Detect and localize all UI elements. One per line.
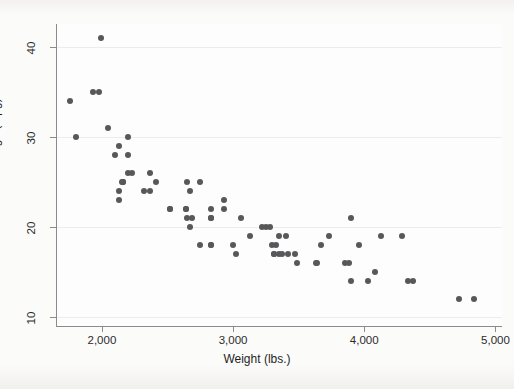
data-point [208,206,214,212]
data-point [267,224,273,230]
data-point [326,233,332,239]
data-point [153,179,159,185]
data-point [147,170,153,176]
scatter-plot-figure: 10203040 2,0003,0004,0005,000 Mileage (m… [0,0,514,389]
data-point [187,224,193,230]
data-point [410,278,416,284]
x-tick-label: 4,000 [350,334,379,346]
x-tick-label: 5,000 [481,334,510,346]
data-point [112,152,118,158]
data-point [208,215,214,221]
data-point [259,224,265,230]
x-axis-line [56,326,502,327]
data-point [365,278,371,284]
scan-artifact-bottom [0,363,514,389]
data-point [356,242,362,248]
y-tick-label: 20 [25,221,37,234]
y-tick-label-wrap: 40 [16,38,46,56]
data-point [197,242,203,248]
x-axis-title: Weight (lbs.) [0,352,514,366]
y-tick-mark [50,47,56,48]
x-tick-mark [364,326,365,332]
data-point [348,278,354,284]
y-tick-label-wrap: 20 [16,218,46,236]
data-point [230,242,236,248]
scan-artifact-top [0,0,514,14]
data-point [221,197,227,203]
data-point [247,233,253,239]
data-point [116,143,122,149]
y-tick-label-wrap: 10 [16,308,46,326]
y-tick-label: 10 [25,312,37,325]
y-axis-line [56,24,57,326]
data-point [285,251,291,257]
y-tick-mark [50,317,56,318]
data-point [105,125,111,131]
data-point [119,179,125,185]
data-point [279,251,285,257]
data-point [283,233,289,239]
data-point [125,134,131,140]
data-point [125,152,131,158]
y-axis-title: Mileage (mpg) [0,98,2,175]
x-tick-mark [495,326,496,332]
y-tick-mark [50,227,56,228]
data-point [98,35,104,41]
y-tick-label-wrap: 30 [16,128,46,146]
data-point [348,215,354,221]
data-point [73,134,79,140]
data-point [125,170,131,176]
data-point [189,215,195,221]
data-point [184,215,190,221]
gridline [56,137,502,138]
data-point [197,179,203,185]
x-tick-mark [233,326,234,332]
data-point [294,260,300,266]
data-point [471,296,477,302]
data-point [313,260,319,266]
gridline [56,227,502,228]
data-point [292,251,298,257]
x-tick-label: 3,000 [219,334,248,346]
data-point [116,188,122,194]
data-point [147,188,153,194]
data-point [208,242,214,248]
plot-area [56,24,502,326]
gridline [56,317,502,318]
data-point [167,206,173,212]
data-point [141,188,147,194]
data-point [238,215,244,221]
y-tick-mark [50,137,56,138]
data-point [378,233,384,239]
data-point [187,188,193,194]
data-point [372,269,378,275]
x-tick-label: 2,000 [88,334,117,346]
data-point [276,233,282,239]
gridline [56,47,502,48]
data-point [456,296,462,302]
y-tick-label: 40 [25,41,37,54]
data-point [183,206,189,212]
data-point [318,242,324,248]
data-point [233,251,239,257]
data-point [184,179,190,185]
y-tick-label: 30 [25,131,37,144]
data-point [67,98,73,104]
data-point [399,233,405,239]
data-point [90,89,96,95]
data-point [221,206,227,212]
data-point [342,260,348,266]
data-point [116,197,122,203]
x-tick-mark [102,326,103,332]
data-point [271,251,277,257]
data-point [96,89,102,95]
